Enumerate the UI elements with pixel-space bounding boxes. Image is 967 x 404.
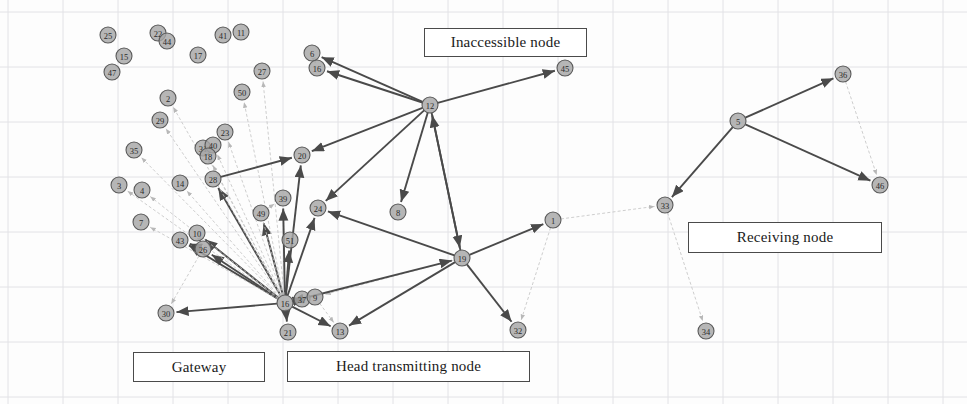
node-circle[interactable] <box>657 197 673 213</box>
graph-node[interactable]: 33 <box>657 197 673 213</box>
graph-node[interactable]: 27 <box>254 63 270 79</box>
graph-node[interactable]: 23 <box>217 124 233 140</box>
node-circle[interactable] <box>195 241 211 257</box>
graph-node[interactable]: 7 <box>133 214 149 230</box>
graph-node[interactable]: 9 <box>307 289 323 305</box>
edge <box>349 262 455 326</box>
graph-node[interactable]: 15 <box>116 48 132 64</box>
graph-node[interactable]: 29 <box>152 112 168 128</box>
edge <box>327 71 422 102</box>
edge <box>326 110 424 200</box>
edge <box>292 307 331 327</box>
edge <box>521 228 550 320</box>
node-circle[interactable] <box>282 232 298 248</box>
node-circle[interactable] <box>152 112 168 128</box>
graph-node[interactable]: 6 <box>304 45 320 61</box>
node-circle[interactable] <box>835 66 851 82</box>
graph-node[interactable]: 16 <box>277 295 293 311</box>
node-circle[interactable] <box>277 295 293 311</box>
node-circle[interactable] <box>116 48 132 64</box>
node-circle[interactable] <box>172 175 188 191</box>
node-circle[interactable] <box>104 64 120 80</box>
graph-node[interactable]: 25 <box>100 27 116 43</box>
graph-node[interactable]: 5 <box>730 113 746 129</box>
node-circle[interactable] <box>275 190 291 206</box>
node-circle[interactable] <box>332 323 348 339</box>
node-circle[interactable] <box>510 322 526 338</box>
graph-node[interactable]: 21 <box>280 324 296 340</box>
node-circle[interactable] <box>310 200 326 216</box>
graph-node[interactable]: 35 <box>126 142 142 158</box>
graph-node[interactable]: 4 <box>134 182 150 198</box>
node-circle[interactable] <box>160 90 176 106</box>
graph-node[interactable]: 34 <box>698 323 714 339</box>
node-circle[interactable] <box>253 205 269 221</box>
graph-node[interactable]: 12 <box>422 97 438 113</box>
graph-node[interactable]: 17 <box>190 47 206 63</box>
graph-node[interactable]: 8 <box>390 204 406 220</box>
graph-node[interactable]: 1 <box>545 212 561 228</box>
graph-node[interactable]: 36 <box>835 66 851 82</box>
graph-node[interactable]: 50 <box>234 84 250 100</box>
node-circle[interactable] <box>545 212 561 228</box>
graph-node[interactable]: 16 <box>309 60 325 76</box>
legend-head-transmitting-node: Head transmitting node <box>287 351 530 382</box>
node-circle[interactable] <box>422 97 438 113</box>
graph-node[interactable]: 39 <box>275 190 291 206</box>
graph-node[interactable]: 13 <box>332 323 348 339</box>
graph-node[interactable]: 3 <box>111 177 127 193</box>
graph-node[interactable]: 11 <box>233 24 249 40</box>
node-circle[interactable] <box>158 305 174 321</box>
graph-node[interactable]: 28 <box>205 171 221 187</box>
legend-gateway: Gateway <box>133 352 265 382</box>
node-circle[interactable] <box>294 147 310 163</box>
node-circle[interactable] <box>872 177 888 193</box>
edge <box>283 208 285 295</box>
graph-node[interactable]: 2 <box>160 90 176 106</box>
graph-node[interactable]: 20 <box>294 147 310 163</box>
graph-node[interactable]: 49 <box>253 205 269 221</box>
graph-node[interactable]: 30 <box>158 305 174 321</box>
graph-node[interactable]: 18 <box>200 148 216 164</box>
node-circle[interactable] <box>100 27 116 43</box>
node-circle[interactable] <box>172 232 188 248</box>
graph-node[interactable]: 41 <box>215 27 231 43</box>
node-circle[interactable] <box>454 250 470 266</box>
node-circle[interactable] <box>730 113 746 129</box>
node-circle[interactable] <box>217 124 233 140</box>
graph-node[interactable]: 47 <box>104 64 120 80</box>
node-circle[interactable] <box>307 289 323 305</box>
node-circle[interactable] <box>698 323 714 339</box>
node-circle[interactable] <box>280 324 296 340</box>
node-circle[interactable] <box>234 84 250 100</box>
node-circle[interactable] <box>215 27 231 43</box>
node-circle[interactable] <box>111 177 127 193</box>
node-circle[interactable] <box>254 63 270 79</box>
edge <box>320 303 334 322</box>
graph-node[interactable]: 51 <box>282 232 298 248</box>
graph-node[interactable]: 44 <box>159 33 175 49</box>
graph-node[interactable]: 24 <box>310 200 326 216</box>
graph-node[interactable]: 26 <box>195 241 211 257</box>
node-circle[interactable] <box>233 24 249 40</box>
node-circle[interactable] <box>304 45 320 61</box>
graph-node[interactable]: 46 <box>872 177 888 193</box>
node-circle[interactable] <box>200 148 216 164</box>
graph-node[interactable]: 45 <box>557 60 573 76</box>
node-circle[interactable] <box>159 33 175 49</box>
node-circle[interactable] <box>190 47 206 63</box>
node-circle[interactable] <box>205 171 221 187</box>
node-circle[interactable] <box>189 225 205 241</box>
node-circle[interactable] <box>133 214 149 230</box>
graph-node[interactable]: 32 <box>510 322 526 338</box>
graph-node[interactable]: 19 <box>454 250 470 266</box>
edge <box>561 206 655 219</box>
graph-node[interactable]: 43 <box>172 232 188 248</box>
node-circle[interactable] <box>557 60 573 76</box>
node-circle[interactable] <box>390 204 406 220</box>
node-circle[interactable] <box>134 182 150 198</box>
node-circle[interactable] <box>309 60 325 76</box>
node-circle[interactable] <box>126 142 142 158</box>
graph-node[interactable]: 10 <box>189 225 205 241</box>
graph-node[interactable]: 14 <box>172 175 188 191</box>
